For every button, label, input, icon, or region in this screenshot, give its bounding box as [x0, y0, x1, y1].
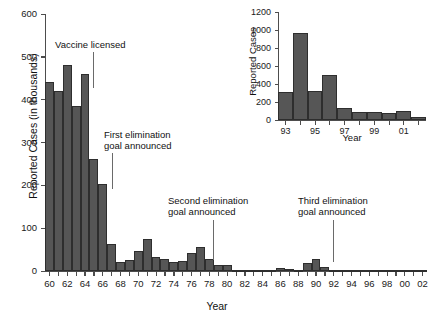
figure: 0100200300400500600 60626466687072747678…: [0, 0, 434, 320]
main-x-axis-title: Year: [0, 300, 434, 312]
main-bar: [107, 244, 116, 271]
main-y-tick: [41, 228, 45, 229]
main-x-tick: [324, 272, 325, 276]
main-x-tick: [395, 272, 396, 276]
main-bar: [54, 91, 63, 271]
main-x-tick: [173, 272, 174, 276]
main-bar: [178, 261, 187, 271]
main-bar: [63, 65, 72, 271]
main-bar: [134, 251, 143, 271]
inset-y-tick: [275, 120, 279, 121]
annotation-leader-line: [213, 220, 214, 260]
main-y-tick: [41, 185, 45, 186]
main-y-tick-label: 600: [0, 8, 37, 19]
main-bar: [320, 267, 329, 271]
main-bar: [89, 159, 98, 271]
inset-x-tick: [344, 121, 345, 125]
main-x-tick: [209, 272, 210, 276]
main-x-tick: [315, 272, 316, 276]
main-bar: [116, 262, 125, 271]
inset-x-tick: [315, 121, 316, 125]
inset-chart: 020040060080010001200 9395979901 Reporte…: [232, 8, 430, 140]
main-x-tick: [422, 272, 423, 276]
inset-y-axis-title: Reported Cases: [247, 8, 258, 116]
annotation-label: Third elimination goal announced: [298, 196, 368, 217]
annotation-label: Second elimination goal announced: [168, 196, 248, 217]
main-bar: [303, 263, 312, 271]
main-x-tick: [156, 272, 157, 276]
main-x-tick: [111, 272, 112, 276]
main-x-tick: [404, 272, 405, 276]
inset-bar: [337, 108, 352, 120]
annotation-label: Vaccine licensed: [55, 40, 126, 51]
main-x-tick: [138, 272, 139, 276]
inset-x-tick: [389, 121, 390, 125]
main-x-tick: [253, 272, 254, 276]
main-x-tick: [102, 272, 103, 276]
main-x-tick: [360, 272, 361, 276]
main-bar: [223, 265, 232, 271]
inset-x-tick: [285, 121, 286, 125]
main-x-tick: [67, 272, 68, 276]
inset-bar: [278, 92, 293, 120]
main-x-tick: [351, 272, 352, 276]
main-x-tick: [49, 272, 50, 276]
main-x-tick: [218, 272, 219, 276]
main-bar: [276, 268, 285, 271]
inset-bar: [322, 75, 337, 120]
inset-y-tick: [275, 48, 279, 49]
main-bar: [125, 260, 134, 271]
main-x-tick: [76, 272, 77, 276]
inset-x-tick: [300, 121, 301, 125]
main-x-tick: [298, 272, 299, 276]
main-bar: [214, 265, 223, 271]
main-bar: [312, 259, 321, 271]
main-x-tick: [413, 272, 414, 276]
inset-bar: [411, 117, 426, 120]
inset-y-tick-label: 0: [232, 115, 271, 125]
main-x-tick: [191, 272, 192, 276]
inset-y-tick: [275, 84, 279, 85]
main-x-tick: [307, 272, 308, 276]
annotation-leader-line: [112, 153, 113, 189]
inset-x-axis-title: Year: [278, 132, 426, 143]
annotation-label: First elimination goal announced: [104, 130, 172, 151]
inset-bar: [367, 112, 382, 120]
main-y-tick: [41, 271, 45, 272]
inset-x-tick: [418, 121, 419, 125]
inset-x-tick: [374, 121, 375, 125]
main-y-tick: [41, 56, 45, 57]
main-x-tick: [58, 272, 59, 276]
main-x-tick: [244, 272, 245, 276]
main-y-tick: [41, 14, 45, 15]
main-y-tick: [41, 99, 45, 100]
main-bar: [81, 74, 90, 271]
main-bar: [72, 106, 81, 271]
main-x-tick: [289, 272, 290, 276]
main-bar: [152, 257, 161, 271]
main-bar: [205, 259, 214, 271]
main-bar: [169, 262, 178, 271]
main-x-tick: [280, 272, 281, 276]
inset-y-tick: [275, 66, 279, 67]
inset-x-tick: [403, 121, 404, 125]
main-bar: [187, 253, 196, 271]
inset-bar: [382, 113, 397, 120]
annotation-leader-line: [333, 220, 334, 262]
main-x-tick: [120, 272, 121, 276]
main-x-tick: [164, 272, 165, 276]
main-x-tick: [342, 272, 343, 276]
main-x-tick-label: 02: [409, 278, 434, 289]
inset-x-tick: [329, 121, 330, 125]
main-x-tick: [387, 272, 388, 276]
main-bar: [160, 259, 169, 271]
main-x-tick: [147, 272, 148, 276]
inset-bar: [396, 111, 411, 120]
main-x-tick: [84, 272, 85, 276]
main-x-tick: [271, 272, 272, 276]
main-bar: [285, 269, 294, 271]
main-y-axis-title: Reported Cases (in thousands): [27, 31, 39, 221]
main-y-tick-label: 100: [0, 222, 37, 233]
main-x-tick: [200, 272, 201, 276]
annotation-leader-line: [93, 52, 94, 88]
